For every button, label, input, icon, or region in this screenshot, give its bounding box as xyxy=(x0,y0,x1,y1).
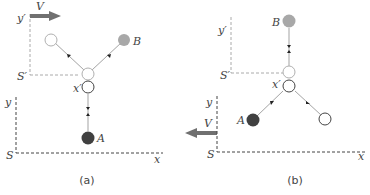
y-prime-label: y′ xyxy=(16,12,26,25)
s-prime-label: S′ xyxy=(17,70,28,83)
lab-frame-s: y S x xyxy=(4,96,163,166)
lab-frame-s: y S x xyxy=(205,96,366,163)
direction-arrow-icon xyxy=(287,45,291,48)
arrow-right-icon xyxy=(49,11,61,21)
particle-a xyxy=(247,114,260,127)
direction-arrow-icon xyxy=(287,50,291,53)
x-prime-label: x′ xyxy=(272,78,281,91)
direction-arrow-icon xyxy=(86,113,90,116)
moving-frame-s-prime: y′ S′ x′ xyxy=(16,12,82,95)
v-label: V xyxy=(204,117,213,130)
collision-particle-dark xyxy=(283,80,295,92)
velocity-arrow-left: V xyxy=(185,117,217,138)
b-label: B xyxy=(132,35,141,48)
particle-a xyxy=(82,132,95,145)
track-left xyxy=(257,91,283,116)
diagram-canvas: y′ S′ x′ V B A y S xyxy=(0,0,370,195)
collision-particle-dark xyxy=(82,81,94,93)
x-label: x xyxy=(358,150,365,163)
y-prime-label: y′ xyxy=(217,24,227,37)
a-label: A xyxy=(236,114,245,127)
x-label: x xyxy=(154,153,161,166)
v-label: V xyxy=(36,0,45,13)
s-label: S xyxy=(6,149,14,162)
direction-arrow-icon xyxy=(86,107,90,110)
collision-particle-light xyxy=(82,68,94,80)
y-label: y xyxy=(205,96,213,109)
velocity-arrow-right: V xyxy=(30,0,61,21)
caption-b: (b) xyxy=(287,174,303,187)
s-prime-label: S′ xyxy=(220,69,231,82)
collision-particle-light xyxy=(283,66,295,78)
particle-b xyxy=(283,15,296,28)
y-label: y xyxy=(4,96,12,109)
panel-b: y′ S′ x′ B A V y S x xyxy=(185,15,366,188)
direction-arrow-icon xyxy=(270,101,274,105)
open-particle-lower-right xyxy=(319,113,331,125)
particle-b xyxy=(118,34,130,46)
arrow-left-icon xyxy=(185,128,197,138)
b-label: B xyxy=(271,16,280,29)
x-prime-label: x′ xyxy=(73,82,82,95)
s-label: S xyxy=(207,148,215,161)
a-label: A xyxy=(96,132,105,145)
panel-a: y′ S′ x′ V B A y S xyxy=(4,0,163,187)
open-particle-upper-left xyxy=(45,34,57,46)
track-right xyxy=(92,42,122,70)
caption-a: (a) xyxy=(79,174,94,187)
